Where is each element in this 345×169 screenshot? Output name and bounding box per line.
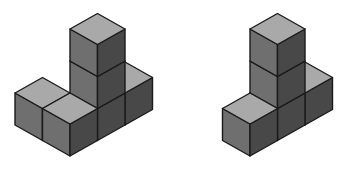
- diagram-canvas: [0, 0, 345, 169]
